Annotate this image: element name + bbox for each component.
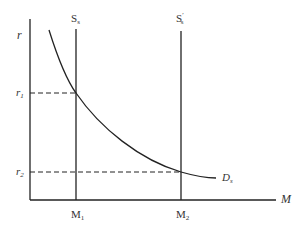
y-axis-label: r [17, 28, 22, 42]
r2-label: r2 [16, 165, 24, 179]
m2-label: M2 [176, 208, 190, 222]
r1-label: r1 [16, 86, 24, 100]
supply-ss-prime-label: S′s [176, 11, 184, 26]
x-axis-label: M [280, 192, 292, 206]
supply-ss-label: Ss [71, 12, 80, 26]
demand-curve-ds [49, 30, 216, 178]
demand-ds-label: Ds [221, 171, 233, 185]
m1-label: M1 [71, 208, 85, 222]
money-market-diagram: r M r1 r2 M1 M2 Ss S′s Ds [0, 0, 301, 228]
